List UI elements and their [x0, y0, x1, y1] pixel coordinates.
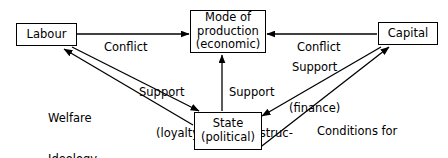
edge-label-state-to-capital: Conditions for accumulation — [317, 97, 397, 158]
node-mode-line-1: Mode of — [205, 11, 251, 25]
node-state-line-1: State — [213, 117, 243, 131]
edge-label-state-to-labour-line-2: Ideology — [48, 153, 111, 158]
edge-label-labour-to-state-line-1: Support — [139, 86, 204, 100]
diagram-canvas: Labour Mode of production (economic) Cap… — [0, 0, 448, 158]
edge-label-state-to-capital-line-1: Conditions for — [317, 125, 397, 139]
node-state[interactable]: State (political) — [194, 112, 262, 150]
node-capital-line-1: Capital — [388, 27, 428, 41]
node-mode-of-production[interactable]: Mode of production (economic) — [190, 10, 266, 53]
node-state-line-2: (political) — [201, 131, 255, 145]
edge-label-labour-to-mode-line-1: Conflict — [104, 41, 148, 55]
edge-label-capital-to-state-line-1: Support — [289, 61, 340, 75]
node-labour-line-1: Labour — [27, 28, 67, 42]
node-labour[interactable]: Labour — [16, 23, 77, 46]
edge-label-state-to-mode-line-1: Support — [229, 86, 293, 100]
node-mode-line-3: (economic) — [196, 38, 260, 52]
edge-label-state-to-labour-line-1: Welfare — [48, 112, 111, 126]
node-capital[interactable]: Capital — [378, 22, 438, 45]
edge-label-state-to-labour: Welfare Ideology Repression — [48, 84, 111, 158]
node-mode-line-2: production — [197, 25, 259, 39]
